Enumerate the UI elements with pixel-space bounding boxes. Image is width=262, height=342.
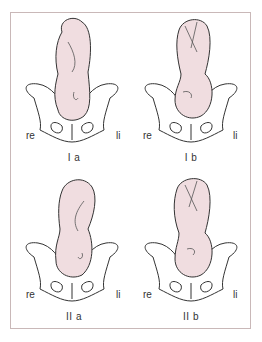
label-left-side: li: [116, 289, 120, 300]
caption: II a: [54, 311, 94, 322]
label-left-side: li: [116, 130, 120, 141]
caption: I a: [54, 152, 94, 163]
label-right-side: re: [143, 130, 152, 141]
fetus-pelvis-illustration: [131, 12, 251, 170]
fetus-pelvis-illustration: [131, 171, 251, 329]
panel-Ia: re li I a: [12, 12, 132, 170]
panel-Ib: re li I b: [131, 12, 251, 170]
fetus-pelvis-illustration: [12, 171, 132, 329]
fetus-pelvis-illustration: [12, 12, 132, 170]
label-right-side: re: [26, 130, 35, 141]
panel-IIa: re li II a: [12, 171, 132, 329]
label-right-side: re: [143, 289, 152, 300]
label-left-side: li: [233, 130, 237, 141]
label-right-side: re: [26, 289, 35, 300]
label-left-side: li: [233, 289, 237, 300]
panel-IIb: re li II b: [131, 171, 251, 329]
caption: I b: [171, 152, 211, 163]
caption: II b: [171, 311, 211, 322]
